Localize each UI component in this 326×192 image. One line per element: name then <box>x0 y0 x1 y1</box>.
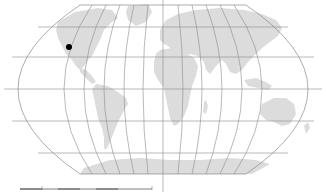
meridian <box>124 5 134 174</box>
land-africa <box>154 48 198 126</box>
scale-bar <box>20 186 152 190</box>
land-new-zealand <box>304 122 310 134</box>
land-australia <box>260 98 296 126</box>
world-map <box>0 0 326 192</box>
land-madagascar <box>203 100 208 114</box>
land-north-america <box>56 8 118 70</box>
land-southeast-asia <box>244 78 272 90</box>
location-marker-dot[interactable] <box>66 44 72 50</box>
land-antarctica <box>80 158 270 174</box>
scale-bar-segment <box>58 188 80 190</box>
scale-bar-segment <box>20 188 42 190</box>
meridian <box>143 5 148 174</box>
scale-bar-segment <box>96 188 118 190</box>
land-greenland <box>126 4 152 26</box>
land-central-america <box>80 68 96 84</box>
